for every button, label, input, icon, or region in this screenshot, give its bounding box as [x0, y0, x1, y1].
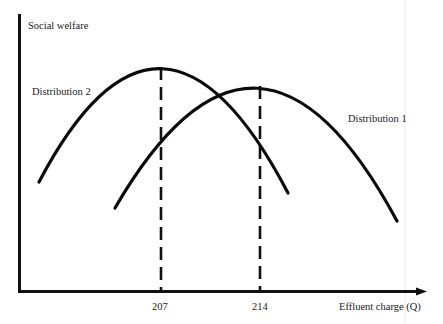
x-axis-arrow-icon [416, 288, 427, 296]
label-distribution-2: Distribution 2 [32, 86, 91, 97]
chart: Social welfare Distribution 2 Distributi… [0, 0, 443, 324]
x-axis-label: Effluent charge (Q) [339, 301, 421, 312]
x-tick-214: 214 [252, 301, 268, 312]
chart-plot [0, 0, 443, 324]
curve-distribution-1 [115, 88, 397, 221]
label-distribution-1: Distribution 1 [348, 113, 407, 124]
x-tick-207: 207 [152, 301, 168, 312]
y-axis-label: Social welfare [28, 20, 88, 31]
